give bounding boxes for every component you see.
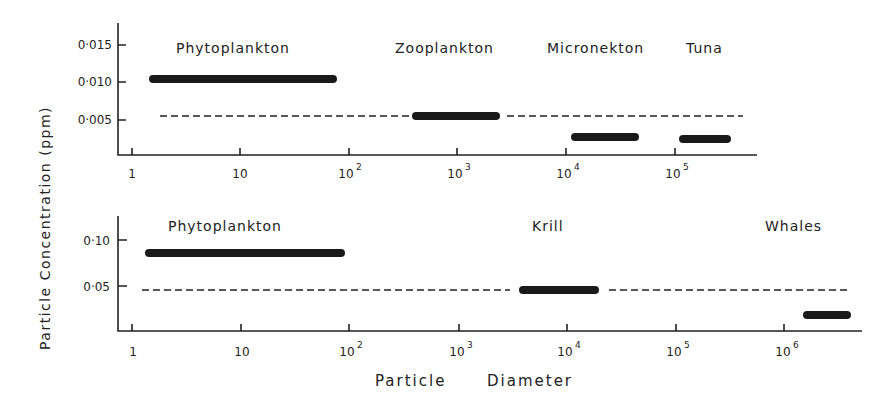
top-x-tick-1e2: 10	[338, 167, 353, 181]
top-x-tick-1e3-exp: 3	[465, 162, 471, 172]
top-label-tuna: Tuna	[685, 40, 723, 56]
bottom-x-tick-1e5-exp: 5	[684, 340, 690, 350]
top-x-ticks	[132, 148, 675, 155]
bottom-x-tick-1e2-exp: 2	[357, 340, 363, 350]
top-label-zooplankton: Zooplankton	[395, 40, 494, 56]
chart-figure: Particle Concentration (ppm) 0·015 0·010…	[0, 0, 889, 404]
top-panel: 0·015 0·010 0·005 1 10 10 2 10 3 10 4 5 …	[78, 23, 757, 181]
top-y-tick-0015: 0·015	[78, 38, 112, 52]
top-x-tick-1e4-exp: 4	[574, 162, 580, 172]
top-x-tick-1e4: 10	[556, 167, 571, 181]
x-axis-label-diameter: Diameter	[487, 372, 573, 390]
bottom-x-tick-1e4: 10	[557, 345, 572, 359]
top-y-tick-0005: 0·005	[78, 113, 112, 127]
bottom-x-tick-1e5: 10	[666, 345, 681, 359]
bottom-x-tick-1e3-exp: 3	[467, 340, 473, 350]
bottom-x-tick-1e2: 10	[339, 345, 354, 359]
bottom-x-tick-10: 10	[234, 345, 249, 359]
top-label-phytoplankton: Phytoplankton	[176, 40, 290, 56]
top-x-tick-1e5-exp: 5	[683, 162, 689, 172]
bottom-x-tick-1e6: 10	[775, 345, 790, 359]
bottom-x-tick-1: 1	[129, 345, 137, 359]
top-x-tick-10: 10	[232, 167, 247, 181]
bottom-label-krill: Krill	[532, 218, 564, 234]
y-axis-label: Particle Concentration (ppm)	[37, 106, 53, 350]
bottom-label-whales: Whales	[765, 218, 822, 234]
bottom-x-tick-1e4-exp: 4	[575, 340, 581, 350]
top-y-ticks	[118, 45, 126, 120]
top-x-tick-1: 1	[128, 167, 136, 181]
top-y-tick-0010: 0·010	[78, 75, 112, 89]
bottom-y-tick-010: 0·10	[83, 234, 110, 248]
bottom-label-phytoplankton: Phytoplankton	[168, 218, 282, 234]
top-x-tick-1e5-base: 10	[665, 167, 680, 181]
bottom-x-tick-1e6-exp: 6	[793, 340, 799, 350]
bottom-panel: 0·10 0·05 1 10 10 2 10 3 10 4 10 5 10 6 …	[83, 216, 862, 390]
bottom-y-tick-005: 0·05	[83, 280, 110, 294]
bottom-y-ticks	[118, 240, 127, 286]
bottom-x-ticks	[132, 324, 784, 331]
x-axis-label-particle: Particle	[375, 372, 446, 390]
top-label-micronekton: Micronekton	[547, 40, 644, 56]
top-x-tick-1e2-exp: 2	[356, 162, 362, 172]
top-x-tick-1e3: 10	[447, 167, 462, 181]
bottom-x-tick-1e3: 10	[449, 345, 464, 359]
